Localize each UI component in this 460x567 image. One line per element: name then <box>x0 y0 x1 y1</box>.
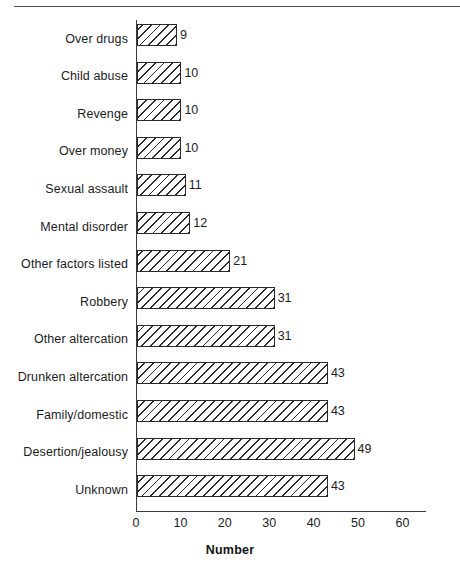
bar-row: Child abuse10 <box>0 58 460 95</box>
bar-row: Sexual assault11 <box>0 170 460 207</box>
category-label: Drunken altercation <box>18 370 128 384</box>
bar-value-label: 10 <box>184 137 198 159</box>
bar <box>137 174 186 196</box>
bar-value-label: 31 <box>278 287 292 309</box>
bar-value-label: 10 <box>184 99 198 121</box>
bar-row: Other factors listed21 <box>0 246 460 283</box>
bar <box>137 362 328 384</box>
bar-row: Over money10 <box>0 133 460 170</box>
x-tick-label: 60 <box>395 516 409 530</box>
x-tick-label: 0 <box>133 516 140 530</box>
bar <box>137 475 328 497</box>
x-tick-label: 40 <box>307 516 321 530</box>
bar-value-label: 10 <box>184 62 198 84</box>
bar <box>137 438 355 460</box>
plot-area: Over drugs9Child abuse10Revenge10Over mo… <box>0 0 460 567</box>
bar <box>137 62 181 84</box>
category-label: Other factors listed <box>21 257 128 271</box>
bar-row: Other altercation31 <box>0 321 460 358</box>
bar <box>137 400 328 422</box>
category-label: Other altercation <box>34 332 128 346</box>
bar <box>137 287 275 309</box>
bar <box>137 325 275 347</box>
bar <box>137 24 177 46</box>
bar-value-label: 11 <box>189 174 202 196</box>
category-label: Robbery <box>80 295 128 309</box>
bar-row: Unknown43 <box>0 471 460 508</box>
x-tick-label: 10 <box>173 516 187 530</box>
category-label: Child abuse <box>61 69 128 83</box>
bar <box>137 212 190 234</box>
category-label: Unknown <box>75 483 128 497</box>
category-label: Sexual assault <box>45 182 128 196</box>
bar-row: Robbery31 <box>0 283 460 320</box>
bar-value-label: 43 <box>331 475 345 497</box>
bar-value-label: 12 <box>193 212 207 234</box>
bar-value-label: 43 <box>331 400 345 422</box>
bar-value-label: 31 <box>278 325 292 347</box>
bar-value-label: 9 <box>180 24 187 46</box>
bar-row: Mental disorder12 <box>0 208 460 245</box>
x-axis-line <box>136 511 426 512</box>
x-tick-label: 20 <box>218 516 232 530</box>
category-label: Over drugs <box>65 32 128 46</box>
category-label: Family/domestic <box>36 408 128 422</box>
bar-row: Over drugs9 <box>0 20 460 57</box>
bar <box>137 99 181 121</box>
bar-row: Revenge10 <box>0 95 460 132</box>
bar <box>137 250 230 272</box>
bar-row: Desertion/jealousy49 <box>0 434 460 471</box>
bar-value-label: 21 <box>233 250 247 272</box>
category-label: Over money <box>59 144 128 158</box>
x-tick-label: 30 <box>262 516 276 530</box>
x-tick-label: 50 <box>351 516 365 530</box>
category-label: Desertion/jealousy <box>23 445 128 459</box>
bar-value-label: 49 <box>358 438 372 460</box>
category-label: Revenge <box>77 107 128 121</box>
bar-row: Drunken altercation43 <box>0 358 460 395</box>
bar-value-label: 43 <box>331 362 345 384</box>
x-axis-title: Number <box>0 543 460 557</box>
bar <box>137 137 181 159</box>
bar-row: Family/domestic43 <box>0 396 460 433</box>
bar-chart-figure: Over drugs9Child abuse10Revenge10Over mo… <box>0 0 460 567</box>
category-label: Mental disorder <box>40 220 128 234</box>
